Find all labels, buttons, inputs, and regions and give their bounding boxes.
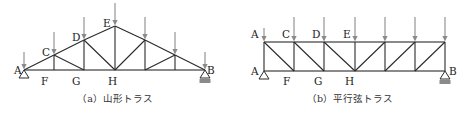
load-arrow-icon xyxy=(321,17,326,42)
node-label-e: E xyxy=(343,28,351,40)
truss-member xyxy=(145,40,175,55)
truss-member xyxy=(385,42,415,71)
truss-member xyxy=(415,42,445,71)
load-arrow-icon xyxy=(172,32,177,55)
truss-member xyxy=(264,42,294,71)
truss-member xyxy=(54,55,84,70)
node-label-g: G xyxy=(72,75,80,87)
truss-member xyxy=(175,55,205,70)
truss-member xyxy=(145,55,175,70)
node-label-c: C xyxy=(282,28,290,40)
node-label-f: F xyxy=(283,75,290,87)
load-arrow-icon xyxy=(291,17,296,42)
truss-member xyxy=(115,26,145,40)
pin-support-icon xyxy=(259,71,269,79)
truss-member xyxy=(355,42,385,71)
node-label-h: H xyxy=(108,75,117,87)
truss-diagram-canvas: ACDEFGHB ACDEAFGHB xyxy=(0,0,464,113)
load-arrow-icon xyxy=(261,28,266,42)
node-label-e: E xyxy=(103,17,111,29)
truss-member xyxy=(324,42,355,71)
node-label-d: D xyxy=(72,31,80,43)
load-arrow-icon xyxy=(112,3,117,26)
node-label-c: C xyxy=(42,46,50,58)
node-label-a: A xyxy=(13,64,22,76)
node-label-d: D xyxy=(312,28,320,40)
node-label-h: H xyxy=(345,75,354,87)
node-label-b: B xyxy=(449,65,457,77)
pitched-truss-figure: ACDEFGHB xyxy=(13,3,215,87)
load-arrow-icon xyxy=(142,17,147,40)
load-arrow-icon xyxy=(51,32,56,55)
load-arrow-icon xyxy=(81,17,86,40)
node-label-g: G xyxy=(314,75,322,87)
node-label-a: A xyxy=(250,65,259,77)
load-arrow-icon xyxy=(412,17,417,42)
node-label-b: B xyxy=(207,64,215,76)
truss-member xyxy=(115,40,145,70)
caption-parallel-chord-truss: （b）平行弦トラス xyxy=(307,91,393,105)
load-arrow-icon xyxy=(382,17,387,42)
truss-member xyxy=(294,42,324,71)
parallel-chord-truss-figure: ACDEAFGHB xyxy=(250,17,457,87)
caption-pitched-truss: （a）山形トラス xyxy=(77,91,153,105)
truss-member xyxy=(84,40,115,70)
load-arrow-icon xyxy=(21,52,26,70)
node-label-a: A xyxy=(250,28,259,40)
node-label-f: F xyxy=(41,75,48,87)
load-arrow-icon xyxy=(352,17,357,42)
load-arrow-icon xyxy=(442,17,447,42)
